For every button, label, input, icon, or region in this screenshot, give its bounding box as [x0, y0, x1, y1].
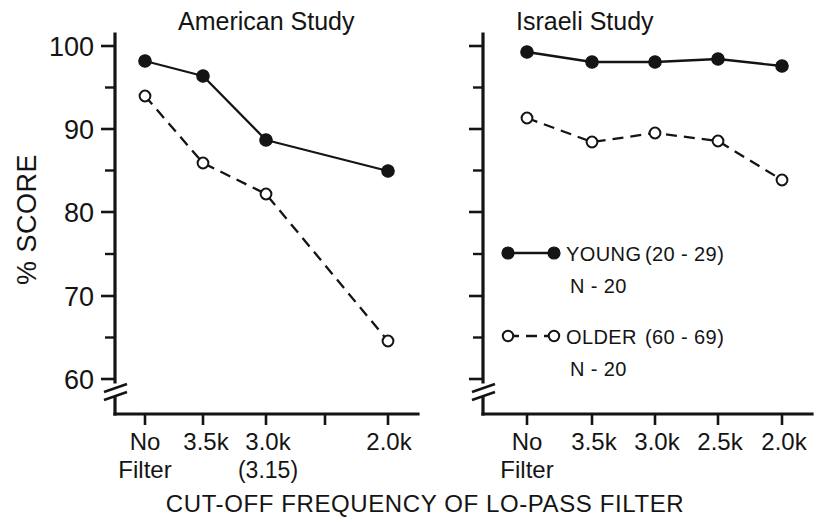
left-x-ticks [145, 414, 388, 425]
left-older-line [145, 96, 388, 341]
right-xtick-label-4: 2.0k [761, 428, 807, 455]
legend-older-age: (60 - 69) [645, 326, 724, 348]
y-tick-label-100: 100 [49, 32, 94, 62]
left-young-markers [139, 55, 394, 177]
left-xtick-label-0: No [130, 428, 161, 455]
legend-older-marker-start [503, 331, 513, 341]
chart-figure: 100 90 80 70 60 % SCORE No Filter 3.5k 3… [0, 0, 822, 522]
left-panel: 100 90 80 70 60 % SCORE No Filter 3.5k 3… [12, 7, 418, 483]
y-tick-label-90: 90 [64, 115, 94, 145]
left-panel-title: American Study [178, 7, 355, 35]
left-y-ticks-major [101, 46, 115, 379]
legend-young-marker-end [548, 247, 560, 259]
right-older-markers [522, 113, 788, 186]
left-xtick-label-2: 3.0k [245, 428, 291, 455]
legend-entry-young: YOUNG (20 - 29) N - 20 [502, 243, 724, 297]
left-young-line [145, 61, 388, 171]
right-xtick-label-1: 3.5k [571, 428, 617, 455]
left-older-markers [140, 91, 394, 347]
right-y-ticks-major [469, 46, 483, 379]
x-axis-title: CUT-OFF FREQUENCY OF LO-PASS FILTER [166, 490, 684, 517]
legend-young-label: YOUNG [566, 243, 641, 265]
figure-page: 100 90 80 70 60 % SCORE No Filter 3.5k 3… [0, 0, 822, 522]
legend-older-n: N - 20 [570, 358, 627, 380]
legend-older-label: OLDER [566, 326, 637, 348]
y-axis-title: % SCORE [12, 154, 42, 285]
y-tick-label-60: 60 [64, 365, 94, 395]
left-xtick-label-4: 2.0k [366, 428, 412, 455]
left-xtick-label-1: 3.5k [183, 428, 229, 455]
legend-entry-older: OLDER (60 - 69) N - 20 [503, 326, 724, 380]
y-tick-label-70: 70 [64, 282, 94, 312]
right-panel-title: Israeli Study [516, 7, 654, 35]
right-xtick-label-3: 2.5k [697, 428, 743, 455]
right-xtick-label-2: 3.0k [634, 428, 680, 455]
left-xtick-label-0-line2: Filter [118, 456, 171, 483]
left-xtick-sublabel: (3.15) [238, 457, 298, 483]
right-xtick-label-0-line2: Filter [500, 456, 553, 483]
right-xtick-label-0: No [512, 428, 543, 455]
legend-young-age: (20 - 29) [645, 243, 724, 265]
right-panel: No Filter 3.5k 3.0k 2.5k 2.0k Israeli St… [469, 7, 812, 483]
legend-young-n: N - 20 [570, 275, 627, 297]
legend-young-marker-start [502, 247, 514, 259]
y-tick-label-80: 80 [64, 198, 94, 228]
right-young-markers [521, 46, 788, 72]
legend: YOUNG (20 - 29) N - 20 OLDER (60 - 69) N… [502, 243, 724, 380]
right-x-ticks [527, 414, 782, 425]
legend-older-marker-end [549, 331, 559, 341]
